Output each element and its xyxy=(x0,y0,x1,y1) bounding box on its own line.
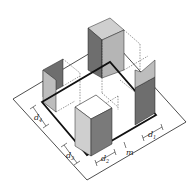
svg-text:m: m xyxy=(126,148,134,157)
pillar-front xyxy=(75,95,112,156)
pillar-left xyxy=(43,59,63,112)
label-d4: d 4 xyxy=(34,113,42,123)
pillar-back xyxy=(88,18,124,78)
svg-text:4: 4 xyxy=(38,117,42,123)
svg-text:3: 3 xyxy=(71,155,74,161)
svg-text:2: 2 xyxy=(105,158,109,164)
label-d3: d 3 xyxy=(66,151,74,161)
label-d1: d 1 xyxy=(148,130,156,140)
label-m: m xyxy=(126,148,134,157)
isometric-pillar-diagram: d 4 d 3 d 2 m d 1 xyxy=(0,0,196,191)
label-d2: d 2 xyxy=(101,154,109,164)
svg-text:1: 1 xyxy=(153,134,156,140)
pillar-right xyxy=(135,60,155,125)
